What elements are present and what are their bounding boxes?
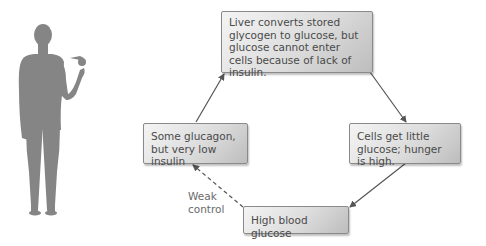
node-liver-glycogen: Liver converts stored glycogen to glucos… <box>221 11 373 73</box>
arrow-left-to-top <box>196 74 224 122</box>
weak-control-line-2: control <box>188 203 224 216</box>
node-glucagon-insulin: Some glucagon, but very low insulin <box>143 123 248 164</box>
arrow-top-to-right <box>370 72 406 122</box>
node-left-text: Some glucagon, but very low insulin <box>151 130 236 167</box>
weak-control-label: Weak control <box>188 190 224 216</box>
node-top-text: Liver converts stored glycogen to glucos… <box>229 16 358 78</box>
arrow-right-to-bottom <box>350 163 406 207</box>
node-high-blood-glucose: High blood glucose <box>243 206 349 234</box>
node-cells-hunger: Cells get little glucose; hunger is high… <box>349 123 461 164</box>
node-right-text: Cells get little glucose; hunger is high… <box>357 130 442 167</box>
weak-control-line-1: Weak <box>188 190 224 203</box>
